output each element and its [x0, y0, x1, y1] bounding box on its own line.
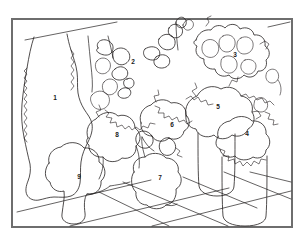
region-label-6: 6	[170, 122, 174, 129]
region-label-7: 7	[158, 175, 162, 182]
region-label-1: 1	[53, 95, 57, 102]
region-label-4: 4	[245, 131, 249, 138]
region-label-2: 2	[131, 59, 135, 66]
line-drawing-canvas	[0, 0, 303, 236]
region-label-8: 8	[115, 132, 119, 139]
region-label-5: 5	[216, 104, 220, 111]
figure-root: 1 2 3 4 5 6 7 8 9	[0, 0, 303, 236]
region-label-3: 3	[233, 52, 237, 59]
region-label-9: 9	[77, 174, 81, 181]
